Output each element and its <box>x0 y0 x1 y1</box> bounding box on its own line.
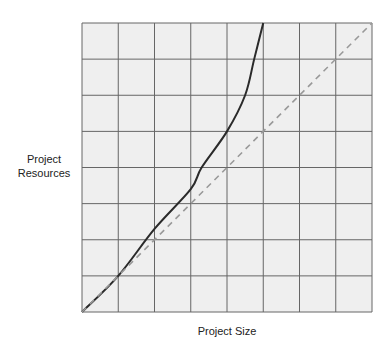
y-axis-label: ProjectResources <box>8 152 80 180</box>
x-axis-label: Project Size <box>82 325 372 337</box>
